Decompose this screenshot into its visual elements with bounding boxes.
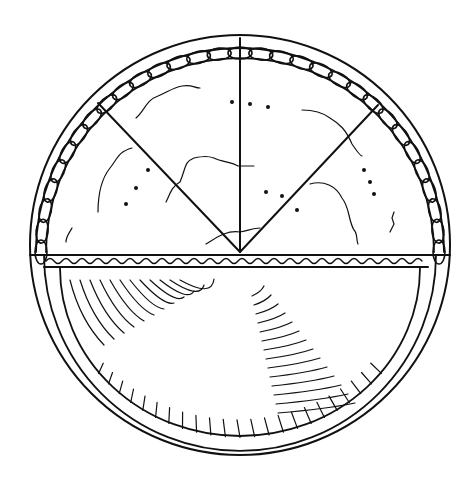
crust-hatching [99,363,382,437]
slice-cuts [98,38,378,252]
filling-arcs-right [252,286,355,413]
filling-arcs-left [70,279,214,345]
pie-diagram [0,0,476,479]
filling-dots [124,100,376,212]
crust-band [30,255,450,267]
filling-cracks [66,85,394,244]
pan-cross-section [44,255,436,451]
